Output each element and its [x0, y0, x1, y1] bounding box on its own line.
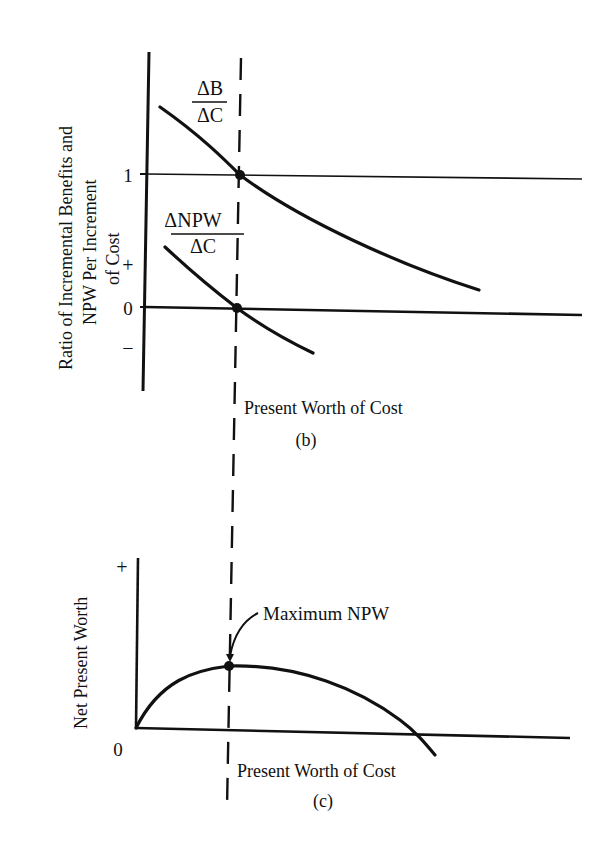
tick-label-one: 1 [123, 165, 133, 186]
svg-text:Ratio of Incremental Benefits: Ratio of Incremental Benefits and [56, 126, 76, 370]
tick-label-zero: 0 [123, 298, 133, 319]
curve-dnpw-dc [165, 247, 313, 353]
panel-c-caption: (c) [313, 791, 333, 812]
tick-label-zero-c: 0 [113, 739, 123, 760]
arrowhead-icon [226, 654, 234, 662]
svg-text:Net Present Worth: Net Present Worth [71, 597, 91, 729]
label-dnpw-dc: ΔNPW ΔC [164, 209, 244, 257]
panel-b-zero-axis [145, 307, 582, 315]
label-db: ΔB [197, 77, 223, 99]
panel-b: ΔB ΔC ΔNPW ΔC 1 + 0 − Ratio of Increment… [56, 52, 582, 451]
tick-label-minus: − [122, 337, 133, 359]
panel-b-y-axis-label: Ratio of Incremental Benefits and NPW Pe… [56, 126, 123, 370]
curve-db-dc [160, 107, 479, 290]
curve-npw [136, 666, 435, 755]
panel-b-x-axis-label: Present Worth of Cost [244, 398, 403, 418]
label-dc: ΔC [197, 104, 223, 126]
label-dnpw: ΔNPW [164, 209, 221, 231]
panel-c-y-axis-label: Net Present Worth [71, 597, 91, 729]
panel-b-caption: (b) [296, 430, 317, 451]
panel-c: Maximum NPW + 0 Net Present Worth Presen… [71, 556, 570, 812]
label-db-dc: ΔB ΔC [192, 77, 227, 126]
panel-c-x-axis [136, 728, 570, 738]
maximum-npw-label: Maximum NPW [263, 603, 389, 624]
panel-b-ratio-one-line [146, 174, 582, 179]
svg-text:of Cost: of Cost [103, 232, 123, 285]
diagram-canvas: ΔB ΔC ΔNPW ΔC 1 + 0 − Ratio of Increment… [0, 0, 610, 849]
tick-label-plus: + [122, 254, 133, 276]
tick-label-plus-c: + [116, 556, 127, 578]
maximum-npw-arrow [230, 613, 258, 656]
panel-c-x-axis-label: Present Worth of Cost [237, 761, 396, 781]
maximum-npw-point [224, 661, 234, 671]
panel-b-y-axis [143, 52, 149, 391]
svg-text:NPW Per Increment: NPW Per Increment [80, 179, 100, 325]
label-dc-2: ΔC [190, 235, 216, 257]
panel-c-y-axis [136, 558, 138, 728]
